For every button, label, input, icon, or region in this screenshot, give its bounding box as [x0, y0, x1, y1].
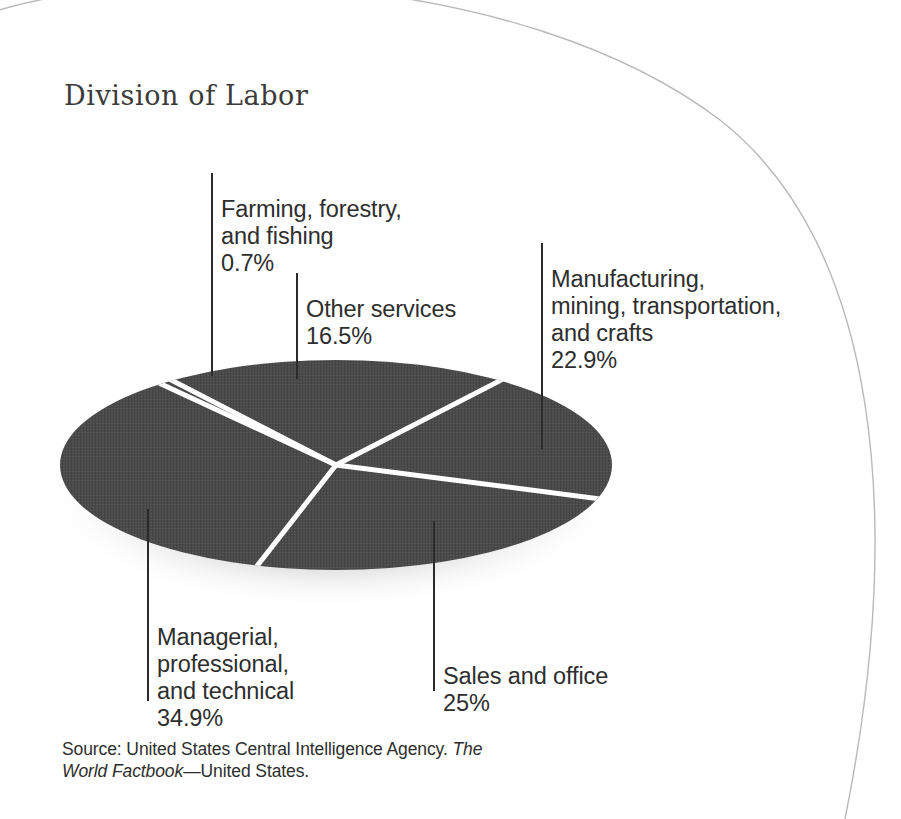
- leader-line-managerial: [147, 509, 149, 701]
- leader-line-farming: [211, 173, 213, 376]
- slice-value-other-services: 16.5%: [306, 323, 456, 350]
- slice-label-other-services-text: Other services: [306, 296, 456, 322]
- slice-label-managerial: Managerial, professional, and technical …: [157, 597, 294, 759]
- slice-value-sales: 25%: [443, 690, 608, 717]
- page-title: Division of Labor: [64, 80, 308, 111]
- slice-label-manufacturing-text: Manufacturing, mining, transportation, a…: [551, 266, 781, 346]
- slice-label-managerial-text: Managerial, professional, and technical: [157, 624, 294, 704]
- source-suffix: —United States.: [183, 761, 309, 781]
- leader-line-manufacturing: [541, 243, 543, 449]
- slice-label-sales: Sales and office 25%: [443, 636, 608, 744]
- source-prefix: Source: United States Central Intelligen…: [62, 739, 453, 759]
- leader-line-sales: [433, 521, 435, 691]
- slice-label-sales-text: Sales and office: [443, 663, 608, 689]
- chart-page: Division of Labor: [0, 0, 901, 819]
- source-note: Source: United States Central Intelligen…: [62, 738, 492, 782]
- slice-label-farming-text: Farming, forestry, and fishing: [221, 196, 402, 249]
- slice-value-manufacturing: 22.9%: [551, 347, 781, 374]
- slice-label-manufacturing: Manufacturing, mining, transportation, a…: [551, 239, 781, 401]
- slice-label-other-services: Other services 16.5%: [306, 269, 456, 377]
- slice-value-managerial: 34.9%: [157, 705, 294, 732]
